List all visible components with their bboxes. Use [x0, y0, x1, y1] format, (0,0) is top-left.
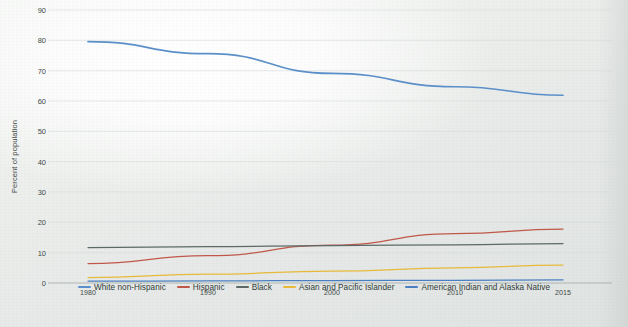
series-line	[88, 42, 563, 96]
legend-color-swatch	[177, 286, 190, 288]
legend-label: Hispanic	[193, 283, 225, 292]
legend-label: American Indian and Alaska Native	[421, 283, 550, 292]
legend-color-swatch	[236, 286, 249, 288]
line-chart: Percent of population 010203040506070809…	[0, 0, 628, 300]
legend-label: Asian and Pacific Islander	[299, 283, 395, 292]
legend-item[interactable]: White non-Hispanic	[78, 283, 166, 292]
series-line	[88, 244, 563, 248]
legend-color-swatch	[405, 286, 418, 288]
legend-item[interactable]: Asian and Pacific Islander	[283, 283, 395, 292]
legend-item[interactable]: Hispanic	[177, 283, 225, 292]
plot-canvas	[0, 0, 628, 300]
legend-item[interactable]: American Indian and Alaska Native	[405, 283, 550, 292]
legend-color-swatch	[283, 286, 296, 288]
legend-color-swatch	[78, 286, 91, 288]
chart-legend: White non-HispanicHispanicBlackAsian and…	[0, 276, 628, 298]
legend-label: White non-Hispanic	[94, 283, 166, 292]
legend-item[interactable]: Black	[236, 283, 272, 292]
legend-label: Black	[252, 283, 272, 292]
